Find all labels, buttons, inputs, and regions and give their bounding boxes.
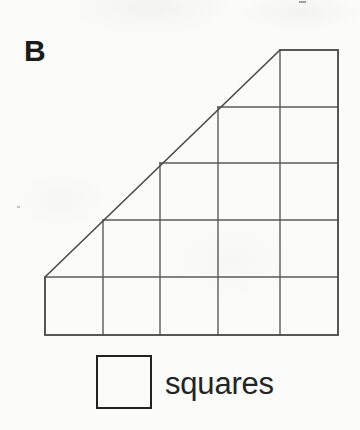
- answer-row: squares: [96, 355, 274, 409]
- trapezoid-path: [45, 50, 338, 335]
- answer-input-box[interactable]: [96, 355, 152, 409]
- answer-unit-label: squares: [165, 368, 274, 399]
- grid-lines: [45, 50, 338, 335]
- worksheet-page: B squares: [0, 0, 360, 430]
- shape-outline: [45, 50, 338, 335]
